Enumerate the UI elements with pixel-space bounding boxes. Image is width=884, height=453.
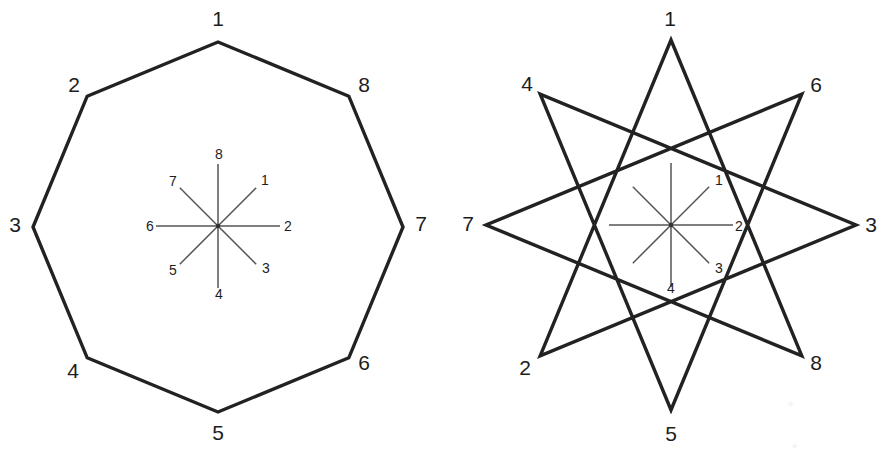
vertex-label-5: 5 — [665, 423, 677, 444]
vertex-label-4: 4 — [521, 73, 533, 94]
spoke-label-8: 8 — [215, 147, 223, 161]
watermark-mark-lower: ✦ — [790, 440, 799, 453]
spoke-hub — [216, 224, 220, 228]
watermark-mark-upper: ✦ — [786, 398, 795, 411]
vertex-label-1: 1 — [664, 8, 676, 29]
spoke-arm-7 — [633, 187, 671, 225]
spoke-arm-3 — [218, 226, 256, 264]
spoke-arm-1 — [218, 188, 256, 226]
spoke-arm-3 — [671, 225, 709, 263]
vertex-label-3: 3 — [9, 214, 21, 235]
spoke-arm-1 — [671, 187, 709, 225]
vertex-label-1: 1 — [212, 8, 224, 29]
vertex-label-7: 7 — [415, 213, 427, 234]
vertex-label-7: 7 — [462, 213, 474, 234]
vertex-label-2: 2 — [519, 357, 531, 378]
spoke-hub — [669, 223, 673, 227]
vertex-label-2: 2 — [68, 74, 80, 95]
vertex-label-3: 3 — [865, 214, 877, 235]
vertex-label-8: 8 — [810, 352, 822, 373]
spoke-label-1: 1 — [715, 173, 723, 187]
spoke-label-2: 2 — [284, 219, 292, 233]
spoke-label-3: 3 — [715, 261, 723, 275]
spoke-label-4: 4 — [215, 287, 223, 301]
spoke-label-5: 5 — [169, 263, 177, 277]
geometry-drawing-surface — [0, 0, 884, 453]
spoke-label-6: 6 — [146, 219, 154, 233]
spoke-label-1: 1 — [261, 173, 269, 187]
vertex-label-5: 5 — [212, 422, 224, 443]
vertex-label-4: 4 — [67, 360, 79, 381]
spoke-label-2: 2 — [735, 219, 743, 233]
vertex-label-8: 8 — [358, 74, 370, 95]
spoke-label-4: 4 — [667, 281, 675, 295]
vertex-label-6: 6 — [358, 352, 370, 373]
spoke-label-3: 3 — [262, 261, 270, 275]
vertex-label-6: 6 — [810, 74, 822, 95]
spoke-arm-5 — [633, 225, 671, 263]
spoke-arm-5 — [180, 226, 218, 264]
spoke-label-7: 7 — [169, 174, 177, 188]
spoke-arm-7 — [180, 188, 218, 226]
left-figure-octagon-group — [33, 42, 403, 412]
right-figure-star-group — [486, 40, 856, 410]
figure-canvas: 1876543281234567163852741234 ✦ ✦ — [0, 0, 884, 453]
